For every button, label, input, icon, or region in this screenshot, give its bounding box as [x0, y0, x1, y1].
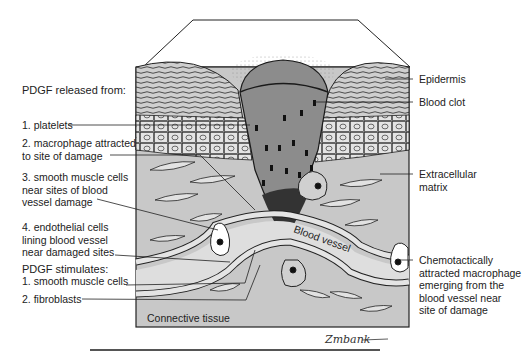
released-item-macrophage-line2: to site of damage: [22, 150, 136, 163]
macrophage-label: Chemotactically attracted macrophage eme…: [419, 254, 521, 317]
released-item-smooth-muscle-line2: near sites of blood: [22, 184, 128, 197]
released-item-endothelial-line1: 4. endothelial cells: [22, 221, 114, 234]
epidermis-label: Epidermis: [419, 73, 466, 86]
macrophage-line5: site of damage: [419, 304, 521, 317]
blood-clot-label: Blood clot: [419, 96, 465, 109]
released-from-heading: PDGF released from:: [22, 84, 126, 97]
ecm-line2: matrix: [419, 181, 477, 194]
stimulates-item-fibroblasts: 2. fibroblasts: [22, 293, 82, 306]
bottom-rule: [90, 349, 380, 351]
released-item-macrophage: 2. macrophage attracted to site of damag…: [22, 137, 136, 162]
macrophage-line4: blood vessel near: [419, 292, 521, 305]
released-item-platelets: 1. platelets: [22, 119, 73, 132]
released-item-endothelial-line3: near damaged sites: [22, 246, 114, 259]
macrophage-line2: attracted macrophage: [419, 267, 521, 280]
artist-signature: Zmbank: [324, 333, 371, 346]
released-item-endothelial-line2: lining blood vessel: [22, 234, 114, 247]
macrophage-line1: Chemotactically: [419, 254, 521, 267]
released-item-endothelial: 4. endothelial cells lining blood vessel…: [22, 221, 114, 259]
released-item-smooth-muscle-line3: vessel damage: [22, 196, 128, 209]
ecm-line1: Extracellular: [419, 168, 477, 181]
released-item-smooth-muscle-line1: 3. smooth muscle cells: [22, 171, 128, 184]
stimulates-heading: PDGF stimulates:: [22, 264, 108, 275]
extracellular-matrix-label: Extracellular matrix: [419, 168, 477, 193]
released-item-smooth-muscle: 3. smooth muscle cells near sites of blo…: [22, 171, 128, 209]
released-item-macrophage-line1: 2. macrophage attracted: [22, 137, 136, 150]
stimulates-item-smooth-muscle: 1. smooth muscle cells: [22, 275, 128, 288]
macrophage-line3: emerging from the: [419, 279, 521, 292]
connective-tissue-label: Connective tissue: [147, 312, 230, 324]
